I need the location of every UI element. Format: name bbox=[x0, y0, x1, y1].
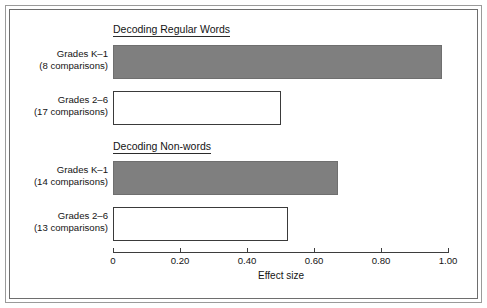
category-label-group2-bar1: Grades K–1 (14 comparisons) bbox=[18, 164, 108, 187]
category-label-line2: (8 comparisons) bbox=[18, 60, 108, 72]
bar-group2-grades-k-1 bbox=[113, 161, 338, 195]
bar-group1-grades-2-6 bbox=[113, 91, 281, 125]
tick-mark-080 bbox=[381, 248, 382, 252]
category-label-line2: (14 comparisons) bbox=[18, 176, 108, 188]
tick-label-020: 0.20 bbox=[171, 255, 190, 266]
category-label-line1: Grades K–1 bbox=[57, 48, 108, 59]
category-label-line1: Grades 2–6 bbox=[58, 94, 108, 105]
x-axis-title: Effect size bbox=[258, 270, 304, 282]
group-title-decoding-regular-words: Decoding Regular Words bbox=[113, 23, 230, 37]
category-label-line1: Grades 2–6 bbox=[58, 210, 108, 221]
tick-label-100: 1.00 bbox=[439, 255, 458, 266]
category-label-group2-bar2: Grades 2–6 (13 comparisons) bbox=[18, 210, 108, 233]
tick-label-060: 0.60 bbox=[305, 255, 324, 266]
tick-label-080: 0.80 bbox=[372, 255, 391, 266]
tick-mark-040 bbox=[247, 248, 248, 252]
tick-mark-020 bbox=[180, 248, 181, 252]
bar-group2-grades-2-6 bbox=[113, 207, 288, 241]
category-label-group1-bar2: Grades 2–6 (17 comparisons) bbox=[18, 94, 108, 117]
tick-mark-0 bbox=[113, 248, 114, 252]
bar-chart: Decoding Regular Words Grades K–1 (8 com… bbox=[0, 0, 487, 308]
tick-label-0: 0 bbox=[110, 255, 115, 266]
tick-mark-060 bbox=[314, 248, 315, 252]
tick-mark-100 bbox=[448, 248, 449, 252]
bar-group1-grades-k-1 bbox=[113, 45, 442, 79]
tick-label-040: 0.40 bbox=[238, 255, 257, 266]
x-axis-line bbox=[113, 252, 449, 253]
category-label-group1-bar1: Grades K–1 (8 comparisons) bbox=[18, 48, 108, 71]
category-label-line2: (13 comparisons) bbox=[18, 222, 108, 234]
category-label-line2: (17 comparisons) bbox=[18, 106, 108, 118]
category-label-line1: Grades K–1 bbox=[57, 164, 108, 175]
group-title-decoding-non-words: Decoding Non-words bbox=[113, 140, 211, 154]
